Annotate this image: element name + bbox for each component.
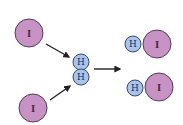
arrow-top-left [46, 44, 69, 57]
hydrogen-atom-top: H [73, 54, 89, 70]
hi-molecule-bottom: I H [127, 73, 173, 101]
iodine-atom-bottom: I [19, 94, 47, 122]
hydrogen-label: H [77, 72, 85, 82]
reaction-diagram: I I H H I H I H [0, 0, 183, 125]
arrow-bottom-left [50, 86, 70, 100]
iodine-label: I [155, 40, 159, 50]
hydrogen-label: H [77, 57, 85, 67]
iodine-label: I [27, 29, 31, 39]
hydrogen-molecule: H H [73, 54, 89, 85]
iodine-atom-top: I [15, 19, 43, 47]
hydrogen-label: H [131, 83, 139, 93]
hydrogen-label: H [129, 39, 137, 49]
iodine-label: I [31, 104, 35, 114]
iodine-label: I [157, 83, 161, 93]
hi-molecule-top: I H [125, 30, 171, 58]
hydrogen-atom-bottom: H [73, 69, 89, 85]
